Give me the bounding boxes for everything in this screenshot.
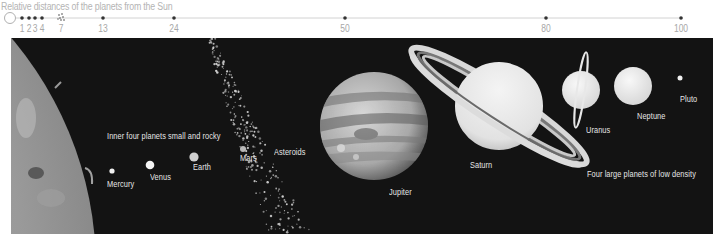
saturn-marker xyxy=(172,16,176,20)
pluto-label: Pluto xyxy=(680,94,697,104)
neptune-icon xyxy=(614,67,652,105)
sun-marker-icon xyxy=(5,13,16,24)
tick-label: 100 xyxy=(674,23,688,34)
asteroids-label: Asteroids xyxy=(274,147,306,157)
solar-system-panel: Inner four planets small and rocky Mercu… xyxy=(11,38,713,234)
pluto-marker xyxy=(679,16,683,20)
tick-label: 7 xyxy=(59,23,64,34)
tick-label: 4 xyxy=(40,23,45,34)
inner-planets-caption: Inner four planets small and rocky xyxy=(107,131,221,141)
uranus-label: Uranus xyxy=(586,125,610,135)
earth-label: Earth xyxy=(193,162,211,172)
venus-icon xyxy=(146,161,155,170)
tick-label: 50 xyxy=(340,23,349,34)
mercury-icon xyxy=(109,168,114,173)
tick-label: 1 xyxy=(20,23,25,34)
asteroid-marker-icon xyxy=(57,13,65,21)
mercury-marker xyxy=(20,16,24,20)
uranus-icon xyxy=(562,52,600,128)
outer-planets-caption: Four large planets of low density xyxy=(587,169,696,179)
tick-label: 13 xyxy=(98,23,107,34)
tick-label: 24 xyxy=(169,23,178,34)
jupiter-icon xyxy=(311,72,431,180)
venus-label: Venus xyxy=(150,172,171,182)
tick-label: 3 xyxy=(33,23,38,34)
earth-icon xyxy=(189,152,198,161)
neptune-marker xyxy=(544,16,548,20)
jupiter-marker xyxy=(101,16,105,20)
earth-marker xyxy=(33,16,37,20)
asteroid-belt-icon xyxy=(209,38,310,234)
mars-marker xyxy=(40,16,44,20)
mars-label: Mars xyxy=(240,153,257,163)
tick-label: 80 xyxy=(541,23,550,34)
jupiter-label: Jupiter xyxy=(389,187,412,197)
pluto-icon xyxy=(678,76,683,81)
mercury-label: Mercury xyxy=(107,179,134,189)
neptune-label: Neptune xyxy=(637,111,665,121)
mars-icon xyxy=(240,146,246,152)
saturn-label: Saturn xyxy=(470,160,492,170)
venus-marker xyxy=(27,16,31,20)
tick-label: 2 xyxy=(27,23,32,34)
sun-icon xyxy=(11,38,96,234)
uranus-marker xyxy=(343,16,347,20)
